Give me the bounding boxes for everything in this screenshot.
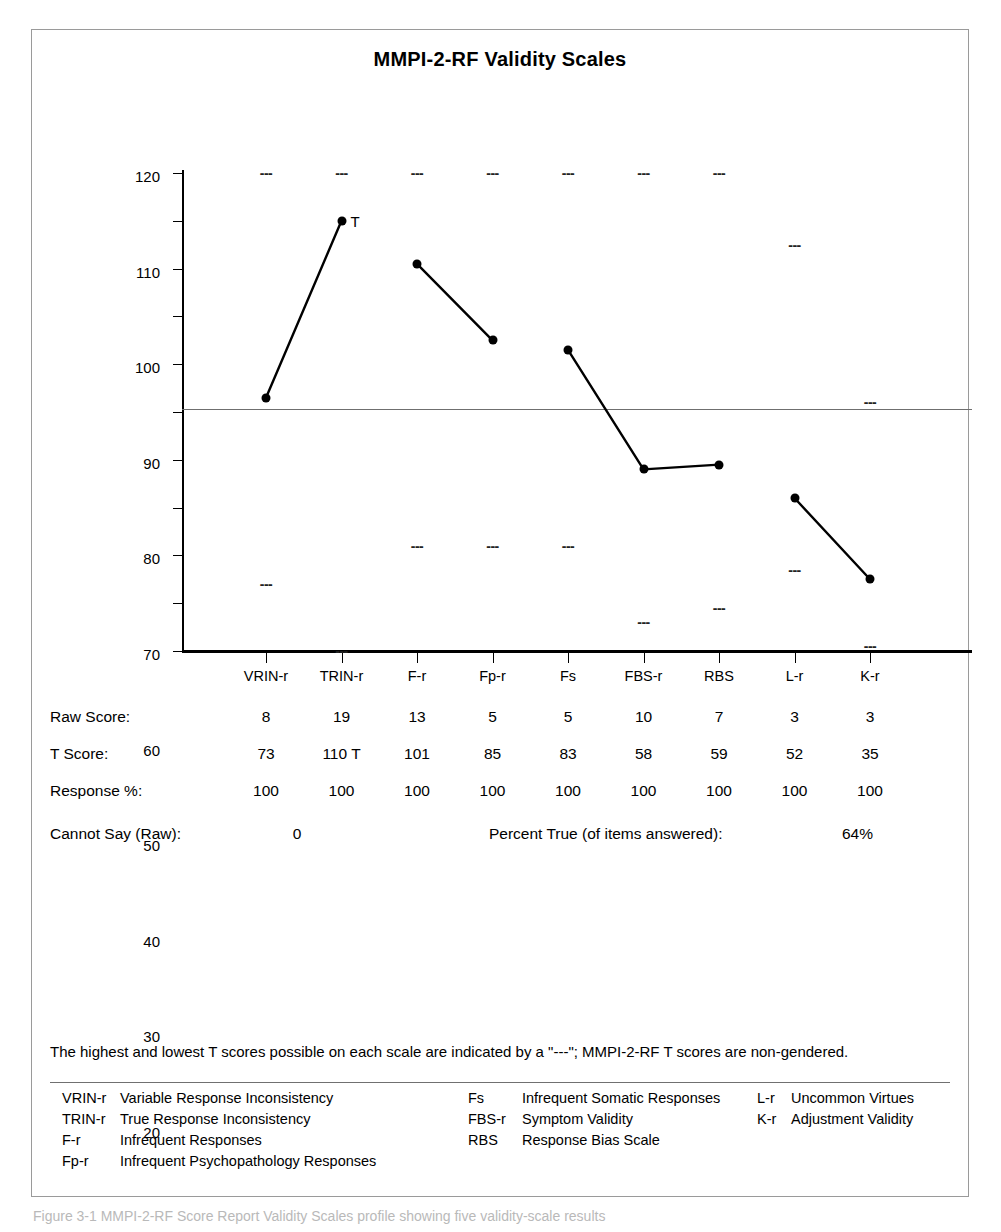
- legend-item: FsInfrequent Somatic Responses: [468, 1090, 720, 1111]
- y-tick-label: 90: [120, 454, 160, 471]
- data-point-fbs-r: [639, 465, 648, 474]
- legend-name: Symptom Validity: [522, 1111, 633, 1127]
- legend-column-2: FsInfrequent Somatic ResponsesFBS-rSympt…: [468, 1090, 720, 1153]
- y-tick: 100: [173, 269, 182, 270]
- percent-true-value: 64%: [842, 825, 873, 843]
- legend-abbr: FBS-r: [468, 1111, 522, 1127]
- score-cell: 110 T: [322, 745, 360, 763]
- score-cell: 59: [710, 745, 727, 763]
- score-cell: 85: [484, 745, 501, 763]
- score-cell: 10: [635, 708, 652, 726]
- legend-item: K-rAdjustment Validity: [757, 1111, 914, 1132]
- legend-name: Infrequent Somatic Responses: [522, 1090, 720, 1106]
- profile-segment-3: [795, 498, 871, 579]
- score-cell: 100: [706, 782, 732, 800]
- legend-abbr: K-r: [757, 1111, 791, 1127]
- legend-abbr: Fp-r: [62, 1153, 120, 1169]
- x-axis-label-rbs: RBS: [704, 668, 734, 684]
- row-label: T Score:: [50, 745, 108, 763]
- data-point-k-r: [866, 575, 875, 584]
- y-tick: 30: [173, 603, 182, 604]
- x-axis-label-fp-r: Fp-r: [479, 668, 506, 684]
- legend-item: TRIN-rTrue Response Inconsistency: [62, 1111, 376, 1132]
- y-tick: 60: [173, 460, 182, 461]
- score-cell: 52: [786, 745, 803, 763]
- score-cell: 13: [408, 708, 425, 726]
- y-tick: 40: [173, 555, 182, 556]
- score-table: Raw Score:819135510733T Score:73110 T101…: [32, 698, 968, 809]
- data-point-vrin-r: [262, 393, 271, 402]
- legend-name: Adjustment Validity: [791, 1111, 913, 1127]
- score-cell: 8: [262, 708, 271, 726]
- y-tick: 50: [173, 508, 182, 509]
- x-axis-label-f-r: F-r: [408, 668, 427, 684]
- score-cell: 5: [488, 708, 497, 726]
- y-tick: 80: [173, 364, 182, 365]
- score-cell: 100: [329, 782, 355, 800]
- cannot-say-label: Cannot Say (Raw):: [50, 825, 181, 843]
- table-row: Raw Score:819135510733: [32, 698, 968, 735]
- legend-item: Fp-rInfrequent Psychopathology Responses: [62, 1153, 376, 1174]
- score-cell: 100: [631, 782, 657, 800]
- figure-caption: Figure 3-1 MMPI-2-RF Score Report Validi…: [33, 1208, 963, 1224]
- score-cell: 83: [559, 745, 576, 763]
- score-cell: 5: [564, 708, 573, 726]
- x-axis-label-l-r: L-r: [786, 668, 804, 684]
- chart-plot-area: 1201101009080706050403020 VRIN-rTRIN-rF-…: [182, 170, 972, 655]
- y-tick: 110: [173, 221, 182, 222]
- data-point-trin-r: [337, 216, 346, 225]
- x-axis-label-fs: Fs: [560, 668, 576, 684]
- legend-name: Uncommon Virtues: [791, 1090, 914, 1106]
- data-point-fp-r: [488, 336, 497, 345]
- footnote-text: The highest and lowest T scores possible…: [50, 1043, 848, 1060]
- score-cell: 3: [866, 708, 875, 726]
- profile-line-segments: [182, 170, 972, 655]
- cannot-say-value: 0: [293, 825, 302, 843]
- annotation-t-flag: T: [351, 212, 360, 229]
- legend-name: Response Bias Scale: [522, 1132, 660, 1148]
- y-tick-label: 120: [120, 168, 160, 185]
- legend-abbr: L-r: [757, 1090, 791, 1106]
- table-row: T Score:73110 T101858358595235: [32, 735, 968, 772]
- score-cell: 100: [253, 782, 279, 800]
- score-cell: 58: [635, 745, 652, 763]
- y-tick-label: 100: [120, 359, 160, 376]
- legend-name: Infrequent Psychopathology Responses: [120, 1153, 376, 1169]
- legend-abbr: TRIN-r: [62, 1111, 120, 1127]
- legend-abbr: VRIN-r: [62, 1090, 120, 1106]
- score-cell: 19: [333, 708, 350, 726]
- y-tick: 20: [173, 651, 182, 652]
- x-axis-label-trin-r: TRIN-r: [320, 668, 364, 684]
- data-point-l-r: [790, 494, 799, 503]
- legend-abbr: RBS: [468, 1132, 522, 1148]
- percent-true-label: Percent True (of items answered):: [489, 825, 722, 843]
- y-tick-label: 80: [120, 550, 160, 567]
- profile-segment-0: [266, 221, 342, 398]
- y-tick: 120: [173, 173, 182, 174]
- legend-column-3: L-rUncommon VirtuesK-rAdjustment Validit…: [757, 1090, 914, 1132]
- legend-name: Variable Response Inconsistency: [120, 1090, 333, 1106]
- score-cell: 100: [782, 782, 808, 800]
- profile-segment-2: [568, 350, 719, 470]
- cannot-say-row: Cannot Say (Raw): 0 Percent True (of ite…: [32, 825, 968, 855]
- y-tick-label: 40: [120, 932, 160, 949]
- profile-segment-1: [417, 264, 493, 340]
- x-axis-label-vrin-r: VRIN-r: [244, 668, 288, 684]
- page-title: MMPI-2-RF Validity Scales: [32, 48, 968, 71]
- scale-legend: VRIN-rVariable Response InconsistencyTRI…: [32, 1090, 968, 1200]
- score-cell: 3: [790, 708, 799, 726]
- data-point-rbs: [715, 460, 724, 469]
- y-tick-label: 70: [120, 646, 160, 663]
- legend-name: True Response Inconsistency: [120, 1111, 310, 1127]
- score-cell: 100: [480, 782, 506, 800]
- legend-item: F-rInfrequent Responses: [62, 1132, 376, 1153]
- legend-abbr: F-r: [62, 1132, 120, 1148]
- score-cell: 7: [715, 708, 724, 726]
- legend-divider: [50, 1082, 950, 1083]
- table-row: Response %:100100100100100100100100100: [32, 772, 968, 809]
- legend-item: FBS-rSymptom Validity: [468, 1111, 720, 1132]
- y-tick: 90: [173, 316, 182, 317]
- report-frame: MMPI-2-RF Validity Scales 12011010090807…: [31, 29, 969, 1197]
- legend-item: RBSResponse Bias Scale: [468, 1132, 720, 1153]
- x-axis-label-fbs-r: FBS-r: [625, 668, 663, 684]
